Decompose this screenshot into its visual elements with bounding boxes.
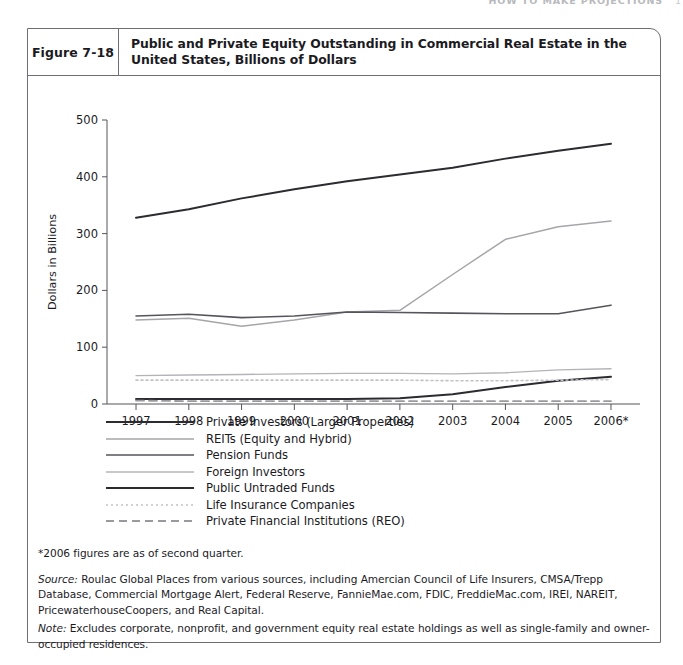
legend-swatch-icon: [106, 432, 196, 446]
figure-header: Figure 7-18 Public and Private Equity Ou…: [28, 29, 660, 76]
figure-notes: *2006 figures are as of second quarter. …: [38, 546, 650, 652]
legend-item-label: Private Investors (Larger Properties): [206, 415, 414, 429]
figure-box: Figure 7-18 Public and Private Equity Ou…: [27, 28, 661, 643]
legend-item: Life Insurance Companies: [106, 497, 586, 514]
legend-item: Private Financial Institutions (REO): [106, 513, 586, 530]
series-line-1: [136, 221, 611, 326]
running-header-page-number: 1: [675, 0, 681, 6]
y-axis-tick-label: 400: [76, 170, 98, 184]
series-line-0: [136, 144, 611, 218]
series-line-5: [136, 380, 611, 381]
line-chart: 0100200300400500Dollars in Billions19971…: [28, 76, 660, 426]
x-axis-tick-label: 2006*: [593, 414, 628, 426]
figure-title-cell: Public and Private Equity Outstanding in…: [119, 29, 660, 75]
figure-number: Figure 7-18: [32, 45, 114, 60]
footnote-asterisk: *2006 figures are as of second quarter.: [38, 546, 650, 562]
chart-area: 0100200300400500Dollars in Billions19971…: [28, 76, 660, 426]
running-header: HOW TO MAKE PROJECTIONS 1: [0, 0, 683, 14]
legend-item: Pension Funds: [106, 447, 586, 464]
legend-swatch-icon: [106, 465, 196, 479]
legend-swatch-icon: [106, 498, 196, 512]
legend-item-label: Private Financial Institutions (REO): [206, 514, 405, 528]
legend-item-label: Public Untraded Funds: [206, 481, 335, 495]
note-label: Note:: [38, 622, 66, 634]
figure-number-cell: Figure 7-18: [28, 29, 119, 75]
source-label: Source:: [38, 573, 78, 585]
chart-legend: Private Investors (Larger Properties)REI…: [106, 414, 586, 530]
note-text: Excludes corporate, nonprofit, and gover…: [38, 622, 649, 650]
legend-item: Private Investors (Larger Properties): [106, 414, 586, 431]
legend-swatch-icon: [106, 448, 196, 462]
series-line-3: [136, 369, 611, 376]
legend-item-label: Pension Funds: [206, 448, 288, 462]
note-note: Note: Excludes corporate, nonprofit, and…: [38, 621, 650, 652]
y-axis-tick-label: 100: [76, 340, 98, 354]
y-axis-tick-label: 0: [91, 397, 98, 411]
source-note: Source: Roulac Global Places from variou…: [38, 572, 650, 619]
legend-item: Foreign Investors: [106, 464, 586, 481]
legend-swatch-icon: [106, 481, 196, 495]
y-axis-tick-label: 300: [76, 227, 98, 241]
legend-item: REITs (Equity and Hybrid): [106, 431, 586, 448]
figure-title: Public and Private Equity Outstanding in…: [131, 36, 648, 69]
legend-swatch-icon: [106, 415, 196, 429]
legend-swatch-icon: [106, 514, 196, 528]
source-text: Roulac Global Places from various source…: [38, 573, 618, 616]
legend-item-label: Life Insurance Companies: [206, 498, 355, 512]
legend-item-label: REITs (Equity and Hybrid): [206, 432, 352, 446]
y-axis-tick-label: 200: [76, 283, 98, 297]
legend-item-label: Foreign Investors: [206, 465, 305, 479]
y-axis-tick-label: 500: [76, 113, 98, 127]
series-line-6: [136, 401, 611, 402]
running-header-title: HOW TO MAKE PROJECTIONS: [488, 0, 663, 6]
legend-item: Public Untraded Funds: [106, 480, 586, 497]
y-axis-title: Dollars in Billions: [46, 214, 59, 310]
